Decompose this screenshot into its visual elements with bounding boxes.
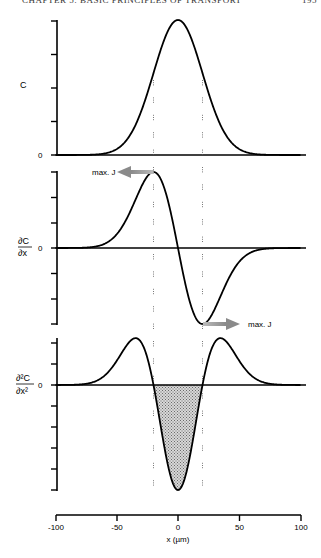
y-ticks <box>51 21 57 155</box>
y-label-num: ∂²C <box>16 373 30 383</box>
max-j-label-left: max. J <box>92 168 116 177</box>
x-tick-label: 100 <box>294 523 308 532</box>
x-tick-label: -100 <box>48 523 65 532</box>
shaded-region <box>154 385 203 490</box>
x-tick-label: 50 <box>235 523 244 532</box>
figure: C 0 ∂C ∂x 0 max. J max. J <box>0 0 321 558</box>
y-label-den: ∂x² <box>16 386 28 396</box>
x-tick-label: -50 <box>111 523 123 532</box>
panel-concentration: C 0 <box>20 20 306 160</box>
panel-first-derivative: ∂C ∂x 0 max. J max. J <box>18 166 306 330</box>
zero-label: 0 <box>38 244 43 253</box>
x-axis-label: x (µm) <box>167 535 190 544</box>
zero-label: 0 <box>38 381 43 390</box>
concentration-curve <box>56 20 301 155</box>
y-ticks <box>51 343 57 490</box>
y-label-c: C <box>20 80 27 90</box>
max-j-label-right: max. J <box>248 320 272 329</box>
panel-second-derivative: ∂²C ∂x² 0 <box>16 338 306 491</box>
x-axis: -100 -50 0 50 100 x (µm) <box>48 515 308 544</box>
zero-label: 0 <box>38 151 43 160</box>
y-label-den: ∂x <box>18 248 27 258</box>
x-tick-label: 0 <box>176 523 181 532</box>
y-label-num: ∂C <box>18 236 29 246</box>
